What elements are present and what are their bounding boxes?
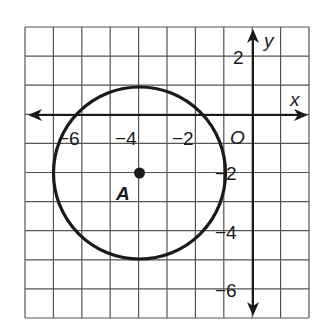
y-tick-label-neg4: −4 (215, 222, 237, 243)
y-tick-label-neg2: −2 (215, 163, 237, 184)
x-axis-label: x (289, 89, 301, 110)
x-axis (28, 109, 308, 121)
x-tick-label-neg6: −6 (58, 128, 80, 149)
x-tick-label-neg4: −4 (115, 128, 137, 149)
x-tick-label-neg2: −2 (172, 128, 194, 149)
origin-label: O (230, 127, 245, 148)
coordinate-plane: x y O −6 −4 −2 2 −2 −4 −6 A (0, 0, 323, 332)
y-axis-label: y (262, 30, 275, 51)
grid (25, 27, 309, 318)
y-tick-label-2: 2 (233, 47, 244, 68)
point-A-label: A (115, 183, 130, 204)
y-tick-label-neg6: −6 (215, 280, 237, 301)
center-point-A (134, 168, 145, 179)
